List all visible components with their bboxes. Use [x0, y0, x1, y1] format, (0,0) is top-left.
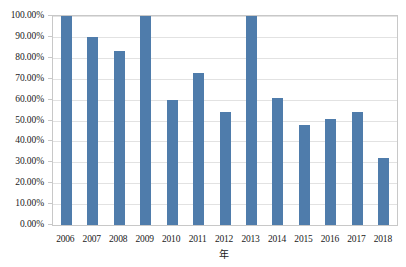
x-tick-slot: 2015 — [290, 228, 316, 246]
bar-slot — [212, 16, 238, 225]
x-tick-label-2016: 2016 — [321, 234, 339, 244]
x-tick-slot: 2007 — [78, 228, 104, 246]
y-tick-label: 50.00% — [15, 115, 44, 125]
x-tick-label-2010: 2010 — [162, 234, 180, 244]
x-tick-label-2007: 2007 — [83, 234, 101, 244]
x-axis-title: 年 — [52, 246, 396, 261]
x-tick-label-2017: 2017 — [347, 234, 365, 244]
bar-slot — [344, 16, 370, 225]
x-tick-label-2012: 2012 — [215, 234, 233, 244]
bar-slot — [265, 16, 291, 225]
bar-slot — [106, 16, 132, 225]
bar-2006[interactable] — [61, 16, 72, 225]
y-tick-label: 100.00% — [11, 10, 44, 20]
bar-2017[interactable] — [352, 112, 363, 225]
x-tick-slot: 2016 — [317, 228, 343, 246]
y-tick-label: 90.00% — [15, 31, 44, 41]
bar-slot — [159, 16, 185, 225]
x-tick-label-2014: 2014 — [268, 234, 286, 244]
bar-2008[interactable] — [114, 51, 125, 226]
x-tick-slot: 2014 — [264, 228, 290, 246]
bar-slot — [185, 16, 211, 225]
x-tick-slot: 2008 — [105, 228, 131, 246]
x-tick-label-2015: 2015 — [294, 234, 312, 244]
y-tick-label: 40.00% — [15, 135, 44, 145]
x-tick-slot: 2012 — [211, 228, 237, 246]
bar-2010[interactable] — [167, 100, 178, 225]
x-tick-slot: 2006 — [52, 228, 78, 246]
bar-2013[interactable] — [246, 16, 257, 225]
bar-chart-figure: 0.00%10.00%20.00%30.00%40.00%50.00%60.00… — [0, 0, 406, 267]
x-tick-label-2008: 2008 — [109, 234, 127, 244]
bar-slot — [132, 16, 158, 225]
bar-2015[interactable] — [299, 125, 310, 225]
plot-area — [52, 15, 398, 226]
x-tick-label-2013: 2013 — [241, 234, 259, 244]
x-tick-label-2011: 2011 — [189, 234, 207, 244]
bar-slot — [79, 16, 105, 225]
bar-slot — [238, 16, 264, 225]
gridline — [53, 225, 397, 226]
bar-2018[interactable] — [378, 158, 389, 225]
x-tick-slot: 2009 — [131, 228, 157, 246]
bar-2014[interactable] — [272, 98, 283, 225]
y-tick-label: 80.00% — [15, 52, 44, 62]
bar-2011[interactable] — [193, 73, 204, 225]
y-tick-label: 10.00% — [15, 198, 44, 208]
y-tick-label: 20.00% — [15, 177, 44, 187]
x-tick-label-2018: 2018 — [374, 234, 392, 244]
y-tick-label: 60.00% — [15, 94, 44, 104]
bar-slot — [371, 16, 397, 225]
x-axis: 2006200720082009201020112012201320142015… — [52, 228, 396, 246]
x-tick-slot: 2018 — [370, 228, 396, 246]
x-tick-label-2006: 2006 — [56, 234, 74, 244]
x-tick-label-2009: 2009 — [136, 234, 154, 244]
x-tick-slot: 2017 — [343, 228, 369, 246]
bar-2007[interactable] — [87, 37, 98, 225]
bar-2012[interactable] — [220, 112, 231, 225]
x-tick-slot: 2013 — [237, 228, 263, 246]
bar-slot — [291, 16, 317, 225]
bar-2009[interactable] — [140, 16, 151, 225]
x-tick-slot: 2010 — [158, 228, 184, 246]
x-tick-slot: 2011 — [184, 228, 210, 246]
bar-slot — [318, 16, 344, 225]
bar-2016[interactable] — [325, 119, 336, 225]
y-tick-label: 70.00% — [15, 73, 44, 83]
y-tick-label: 30.00% — [15, 156, 44, 166]
bar-slot — [53, 16, 79, 225]
y-tick-label: 0.00% — [20, 219, 44, 229]
y-axis: 0.00%10.00%20.00%30.00%40.00%50.00%60.00… — [0, 0, 48, 267]
bars-layer — [53, 16, 397, 225]
